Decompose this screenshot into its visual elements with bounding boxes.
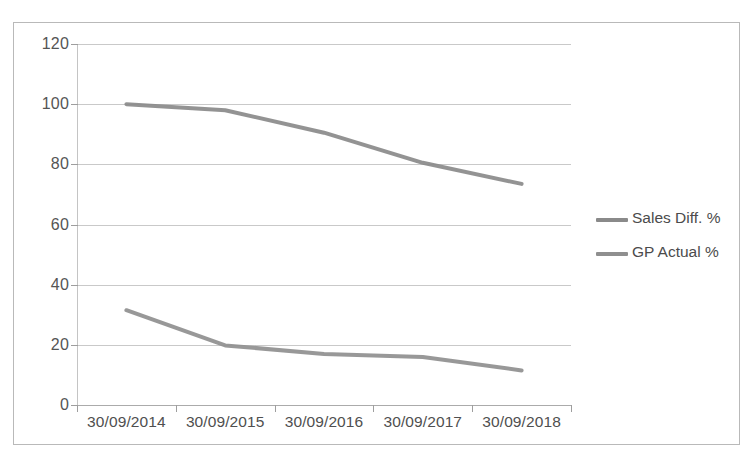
- x-axis-line: [77, 405, 571, 406]
- gridline-120: [77, 44, 571, 45]
- y-axis-label-100: 100: [23, 96, 69, 112]
- y-axis-label-wrap: 80: [17, 156, 69, 172]
- y-axis-label-80: 80: [23, 156, 69, 172]
- y-axis-label-0: 0: [23, 397, 69, 413]
- gridline-80: [77, 164, 571, 165]
- y-tick-120: [71, 44, 78, 45]
- y-tick-100: [71, 104, 78, 105]
- x-axis-label-30/09/2018: 30/09/2018: [462, 413, 582, 431]
- legend-label: Sales Diff. %: [632, 208, 720, 228]
- x-tick-5: [571, 405, 572, 412]
- y-axis-label-40: 40: [23, 277, 69, 293]
- y-axis-label-wrap: 100: [17, 96, 69, 112]
- y-axis-label-wrap: 120: [17, 36, 69, 52]
- legend-swatch-icon: [596, 218, 628, 222]
- y-axis-label-20: 20: [23, 337, 69, 353]
- y-axis-label-wrap: 0: [17, 397, 69, 413]
- x-tick-4: [472, 405, 473, 412]
- gridline-40: [77, 285, 571, 286]
- chart-legend: Sales Diff. %GP Actual %: [596, 206, 736, 274]
- legend-item-gp-actual[interactable]: GP Actual %: [596, 240, 736, 274]
- y-tick-60: [71, 225, 78, 226]
- gridline-100: [77, 104, 571, 105]
- series-line-sales-diff: [126, 104, 521, 184]
- x-tick-2: [275, 405, 276, 412]
- y-axis-label-60: 60: [23, 217, 69, 233]
- legend-swatch-icon: [596, 252, 628, 256]
- x-tick-3: [373, 405, 374, 412]
- legend-item-sales-diff[interactable]: Sales Diff. %: [596, 206, 736, 240]
- series-line-gp-actual: [126, 310, 521, 370]
- chart-frame: 120100806040200 30/09/201430/09/201530/0…: [13, 22, 740, 445]
- legend-label: GP Actual %: [632, 242, 719, 262]
- y-tick-20: [71, 345, 78, 346]
- gridline-20: [77, 345, 571, 346]
- y-axis-label-wrap: 20: [17, 337, 69, 353]
- y-tick-40: [71, 285, 78, 286]
- y-axis-label-wrap: 60: [17, 217, 69, 233]
- y-axis-label-120: 120: [23, 36, 69, 52]
- y-axis-label-wrap: 40: [17, 277, 69, 293]
- gridline-60: [77, 225, 571, 226]
- x-tick-1: [176, 405, 177, 412]
- y-tick-80: [71, 164, 78, 165]
- x-tick-0: [77, 405, 78, 412]
